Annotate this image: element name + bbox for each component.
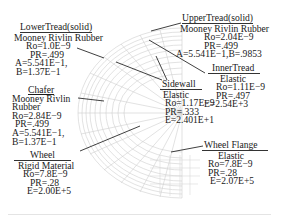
- label-lower-tread: LowerTread(solid) Mooney Rivlin Rubber R…: [14, 23, 102, 77]
- wheel-flange-modulus: E=2.07E+5: [202, 177, 282, 186]
- leader-wheel: [80, 126, 140, 151]
- wheel-modulus: E=2.00E+5: [14, 187, 84, 196]
- tire-material-diagram: LowerTread(solid) Mooney Rivlin Rubber R…: [0, 0, 285, 217]
- label-upper-tread: UpperTread(solid) Mooney Rivlin Rubber R…: [180, 14, 285, 59]
- label-wheel: Wheel Rigid Material Ro=7.8E−9 PR=.28 E=…: [14, 151, 84, 196]
- sidewall-modulus: E=2.401E+1: [160, 116, 220, 125]
- label-chafer: Chafer Mooney Rivlin Rubber Ro=2.84E−9 P…: [12, 86, 82, 146]
- label-sidewall: Sidewall Elastic Ro=1.17E−9 PR=.333 E=2.…: [160, 80, 220, 125]
- label-wheel-flange: Wheel Flange Elastic Ro=7.8E−9 PR=.28 E=…: [202, 141, 282, 186]
- chafer-b: B=1.37E−1: [12, 138, 82, 147]
- bottom-divider: [8, 214, 271, 215]
- leader-upper-tread: [151, 23, 181, 31]
- lower-tread-b: B=1.37E−1: [14, 68, 102, 77]
- upper-tread-ab: A=5.541E−1,B=.9853: [176, 50, 285, 59]
- leader-wheel-flange: [171, 146, 203, 152]
